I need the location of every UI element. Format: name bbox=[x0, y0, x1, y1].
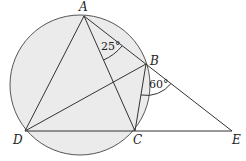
angle-label-b: 60° bbox=[149, 79, 169, 90]
circle bbox=[10, 15, 150, 155]
label-point-c: C bbox=[133, 134, 142, 146]
geometry-diagram: A B C D E 25° 60° bbox=[0, 0, 246, 161]
angle-label-a: 25° bbox=[101, 41, 121, 52]
diagram-svg bbox=[0, 0, 246, 161]
label-point-b: B bbox=[150, 55, 159, 67]
label-point-a: A bbox=[79, 1, 88, 13]
label-point-d: D bbox=[13, 134, 23, 146]
label-point-e: E bbox=[232, 134, 241, 146]
